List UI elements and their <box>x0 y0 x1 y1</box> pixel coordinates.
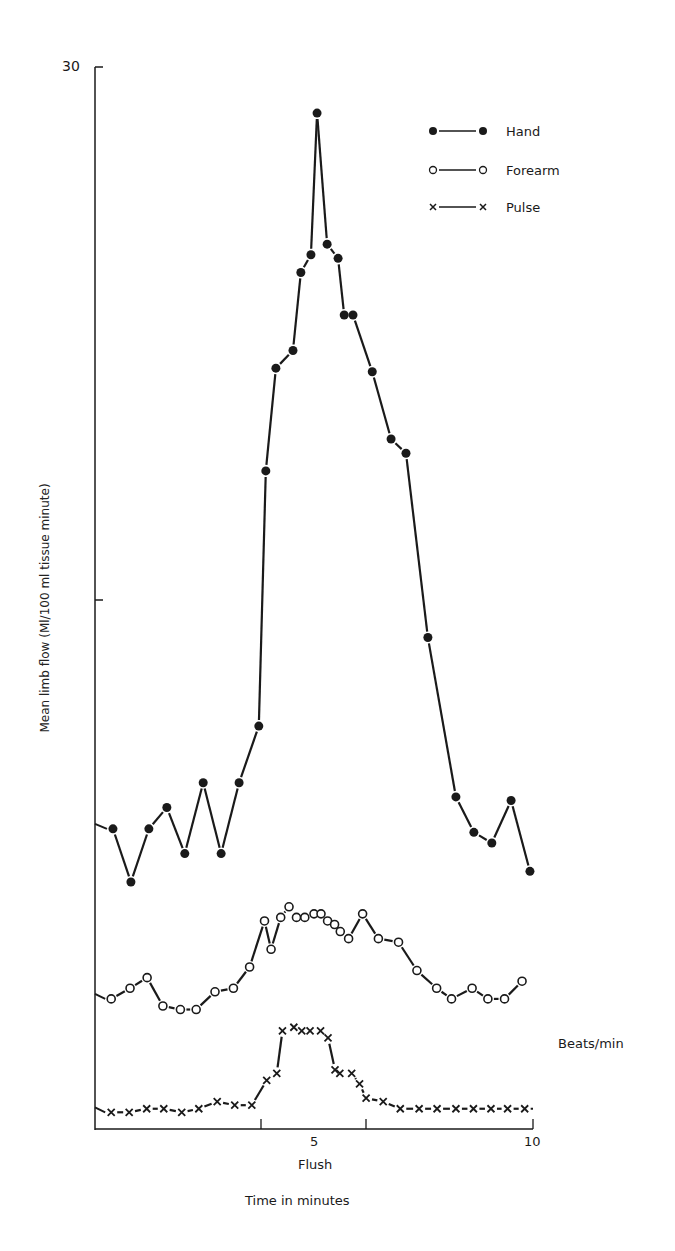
data-point <box>288 346 297 355</box>
data-point <box>301 913 309 921</box>
flush-label: Flush <box>298 1157 332 1172</box>
data-point <box>323 240 332 249</box>
data-point <box>487 838 496 847</box>
x-tick-label-10: 10 <box>524 1134 541 1149</box>
data-point <box>306 250 315 259</box>
data-point <box>325 1034 332 1041</box>
data-point <box>229 984 237 992</box>
data-point <box>356 1080 363 1087</box>
data-point <box>348 1070 355 1077</box>
legend-label: Forearm <box>506 163 560 178</box>
data-point <box>254 722 263 731</box>
data-point <box>521 1105 528 1112</box>
data-point <box>108 1109 115 1116</box>
data-point <box>451 792 460 801</box>
data-point <box>504 1105 511 1112</box>
data-point <box>160 1105 167 1112</box>
data-point <box>433 984 441 992</box>
data-point <box>401 449 410 458</box>
axes <box>95 67 533 1130</box>
data-point <box>313 109 322 118</box>
legend-label: Hand <box>506 124 540 139</box>
series-layer <box>95 109 534 1116</box>
data-point <box>126 877 135 886</box>
data-point <box>368 367 377 376</box>
data-point <box>217 849 226 858</box>
open-circle-marker-icon <box>428 164 488 176</box>
data-point <box>107 995 115 1003</box>
y-tick-label-30: 30 <box>62 58 80 74</box>
data-point <box>413 967 421 975</box>
data-point <box>374 935 382 943</box>
data-point <box>178 1109 185 1116</box>
legend-item-pulse: Pulse <box>428 197 540 217</box>
data-point <box>345 935 353 943</box>
data-point <box>298 1027 305 1034</box>
series-hand <box>95 109 534 887</box>
data-point <box>307 1027 314 1034</box>
data-point <box>199 778 208 787</box>
data-point <box>518 977 526 985</box>
chart-plot-area <box>0 0 675 1251</box>
data-point <box>246 963 254 971</box>
data-point <box>261 917 269 925</box>
x-tick-label-5: 5 <box>310 1134 318 1149</box>
data-point <box>525 867 534 876</box>
y-axis-title: Mean limb flow (Ml/100 ml tissue minute) <box>38 483 52 732</box>
series-pulse <box>95 1024 533 1116</box>
data-point <box>273 1070 280 1077</box>
data-point <box>180 849 189 858</box>
data-point <box>448 995 456 1003</box>
data-point <box>331 920 339 928</box>
filled-circle-marker-icon <box>428 125 488 137</box>
data-point <box>263 1077 270 1084</box>
data-point <box>162 803 171 812</box>
data-point <box>507 796 516 805</box>
data-point <box>387 435 396 444</box>
legend-item-hand: Hand <box>428 121 540 141</box>
data-point <box>340 311 349 320</box>
data-point <box>126 984 134 992</box>
data-point <box>470 1105 477 1112</box>
x-axis-title: Time in minutes <box>245 1193 350 1208</box>
data-point <box>143 1105 150 1112</box>
data-point <box>469 828 478 837</box>
data-point <box>159 1002 167 1010</box>
data-point <box>261 466 270 475</box>
data-point <box>279 1027 286 1034</box>
data-point <box>143 974 151 982</box>
data-point <box>348 311 357 320</box>
data-point <box>487 1105 494 1112</box>
data-point <box>192 1006 200 1014</box>
data-point <box>397 1105 404 1112</box>
data-point <box>248 1102 255 1109</box>
beats-per-min-label: Beats/min <box>558 1036 624 1051</box>
data-point <box>395 938 403 946</box>
data-point <box>363 1095 370 1102</box>
data-point <box>267 945 275 953</box>
data-point <box>235 778 244 787</box>
data-point <box>211 988 219 996</box>
data-point <box>484 995 492 1003</box>
data-point <box>144 824 153 833</box>
data-point <box>176 1006 184 1014</box>
data-point <box>468 984 476 992</box>
legend-item-forearm: Forearm <box>428 160 560 180</box>
data-point <box>380 1098 387 1105</box>
data-point <box>126 1109 133 1116</box>
data-point <box>423 633 432 642</box>
data-point <box>108 824 117 833</box>
legend-label: Pulse <box>506 200 540 215</box>
data-point <box>296 268 305 277</box>
data-point <box>359 910 367 918</box>
data-point <box>501 995 509 1003</box>
data-point <box>292 913 300 921</box>
data-point <box>334 254 343 263</box>
data-point <box>231 1102 238 1109</box>
data-point <box>434 1105 441 1112</box>
series-forearm <box>95 903 526 1014</box>
data-point <box>195 1105 202 1112</box>
data-point <box>214 1098 221 1105</box>
data-point <box>271 364 280 373</box>
data-point <box>416 1105 423 1112</box>
